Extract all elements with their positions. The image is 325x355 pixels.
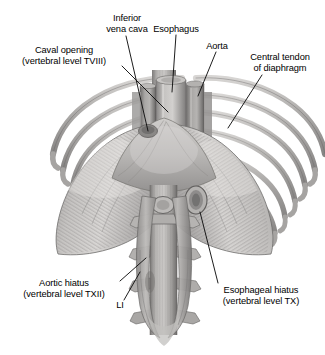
label-aortic-hiatus: Aortic hiatus (vertebral level TXII): [8, 278, 120, 299]
aortic-hiatus: [145, 271, 155, 293]
label-esophagus: Esophagus: [147, 24, 205, 35]
label-central-tendon-of-diaphragm: Central tendon of diaphragm: [240, 52, 320, 73]
label-aorta: Aorta: [200, 41, 234, 52]
label-caval-opening: Caval opening (vertebral level TVIII): [8, 45, 120, 66]
label-vertebra-li: LI: [112, 300, 128, 311]
label-esophageal-hiatus: Esophageal hiatus (vertebral level TX): [205, 285, 317, 306]
anatomical-figure-diaphragm: Inferior vena cava Esophagus Aorta Caval…: [0, 0, 325, 355]
